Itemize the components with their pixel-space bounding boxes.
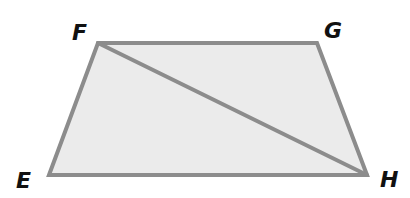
vertex-label-e: E bbox=[16, 168, 31, 193]
vertex-label-f: F bbox=[72, 20, 87, 45]
trapezoid-efgh bbox=[49, 43, 367, 175]
vertex-label-h: H bbox=[380, 167, 398, 192]
vertex-label-g: G bbox=[324, 18, 342, 43]
trapezoid-diagram: E F G H bbox=[0, 0, 410, 198]
